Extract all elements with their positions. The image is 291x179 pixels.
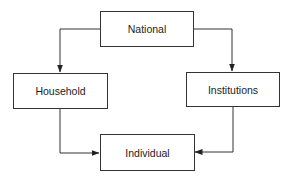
node-household-label: Household bbox=[35, 85, 85, 97]
edge-household-individual bbox=[60, 108, 99, 153]
edge-institutions-individual bbox=[195, 106, 233, 152]
edge-national-institutions bbox=[193, 29, 232, 71]
node-institutions-label: Institutions bbox=[208, 84, 258, 96]
node-institutions: Institutions bbox=[186, 72, 280, 107]
node-individual-label: Individual bbox=[125, 147, 169, 159]
edge-national-household bbox=[60, 29, 100, 72]
node-national: National bbox=[100, 11, 194, 47]
node-individual: Individual bbox=[100, 134, 195, 171]
node-household: Household bbox=[13, 73, 108, 109]
node-national-label: National bbox=[128, 23, 167, 35]
